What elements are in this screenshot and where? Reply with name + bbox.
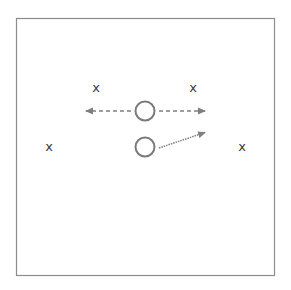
circle-player-bottom (136, 138, 155, 157)
x-marker-mid-left: x (45, 139, 53, 154)
x-marker-top-right: x (189, 80, 197, 95)
circle-player-top (136, 102, 155, 121)
play-diagram: x x x x (0, 0, 291, 290)
x-marker-top-left: x (92, 80, 100, 95)
x-marker-mid-right: x (238, 139, 246, 154)
